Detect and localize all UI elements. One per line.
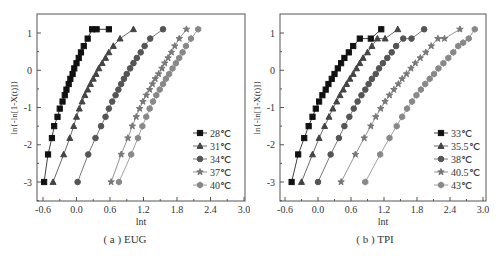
- data-point-marker: [332, 71, 337, 76]
- data-point-marker: [138, 50, 144, 56]
- data-point-marker: [368, 123, 374, 129]
- data-point-marker: [74, 114, 80, 120]
- data-point-marker: [62, 93, 67, 98]
- data-point-marker: [144, 114, 149, 120]
- data-point-marker: [55, 114, 60, 119]
- data-point-marker: [461, 40, 466, 46]
- data-point-marker: [125, 135, 131, 141]
- data-point-marker: [376, 66, 382, 72]
- data-point-marker: [108, 179, 114, 185]
- data-point-marker: [310, 114, 315, 119]
- x-tick-label: 3.0: [477, 204, 490, 215]
- data-point-marker: [340, 86, 346, 92]
- series-33℃: [289, 27, 384, 185]
- data-point-marker: [57, 106, 62, 111]
- data-point-marker: [317, 99, 322, 104]
- legend-label: 34℃: [210, 154, 231, 165]
- x-tick-label: -0.6: [35, 204, 51, 215]
- data-point-marker: [414, 92, 419, 98]
- legend-marker: [438, 156, 444, 162]
- data-point-marker: [106, 106, 112, 112]
- data-point-marker: [342, 55, 347, 60]
- data-point-marker: [142, 43, 148, 49]
- x-tick-label: 1.2: [137, 204, 150, 215]
- legend-label: 28℃: [210, 128, 231, 139]
- data-point-marker: [98, 123, 104, 129]
- legend-label: 40℃: [210, 180, 231, 191]
- data-point-marker: [350, 71, 356, 77]
- data-point-marker: [382, 98, 388, 104]
- data-point-marker: [357, 36, 362, 41]
- data-point-marker: [49, 135, 54, 140]
- data-point-marker: [336, 135, 342, 141]
- data-point-marker: [177, 55, 182, 61]
- data-point-marker: [421, 26, 427, 32]
- data-point-marker: [72, 66, 77, 71]
- data-point-marker: [363, 179, 368, 185]
- data-point-marker: [389, 50, 395, 56]
- data-point-marker: [289, 179, 294, 184]
- data-point-marker: [351, 106, 357, 112]
- data-point-marker: [337, 92, 343, 98]
- data-point-marker: [366, 81, 372, 87]
- data-point-marker: [155, 71, 161, 77]
- chart-panel-eug: -0.60.00.61.21.82.43.0lnt10-1-2-3ln{-ln[…: [0, 0, 250, 256]
- legend-label: 38℃: [451, 154, 472, 165]
- data-point-marker: [143, 92, 149, 98]
- data-point-marker: [334, 98, 340, 104]
- data-point-marker: [373, 71, 379, 77]
- chart-panel-tpi: -0.60.00.61.21.82.43.0lnt10-1-2-3ln{-ln[…: [250, 0, 500, 256]
- series-34℃: [75, 26, 166, 184]
- legend-label: 40.5℃: [451, 167, 480, 178]
- data-point-marker: [167, 71, 172, 77]
- data-point-marker: [296, 152, 301, 157]
- data-point-marker: [446, 55, 451, 61]
- y-tick-label: -3: [267, 177, 275, 188]
- data-point-marker: [146, 86, 152, 92]
- data-point-marker: [435, 35, 441, 41]
- data-point-marker: [394, 123, 399, 129]
- y-tick-label: 0: [270, 65, 275, 76]
- data-point-marker: [79, 98, 85, 104]
- data-point-marker: [173, 60, 178, 66]
- data-point-marker: [368, 36, 373, 41]
- series-28℃: [42, 27, 112, 185]
- data-point-marker: [355, 99, 361, 105]
- x-tick-label: 0.6: [345, 204, 358, 215]
- legend: 28℃31℃34℃37℃40℃: [193, 128, 231, 191]
- data-point-marker: [159, 65, 165, 71]
- y-tick-label: 0: [27, 65, 32, 76]
- x-tick-label: 3.0: [238, 204, 250, 215]
- data-point-marker: [299, 179, 305, 185]
- data-point-marker: [118, 81, 124, 87]
- data-point-marker: [400, 36, 406, 42]
- data-point-marker: [50, 179, 56, 185]
- data-point-marker: [339, 61, 344, 66]
- data-point-marker: [409, 36, 415, 42]
- data-point-marker: [382, 35, 388, 41]
- data-point-marker: [127, 66, 133, 72]
- x-tick-label: 1.8: [171, 204, 184, 215]
- data-point-marker: [61, 151, 67, 157]
- series-37℃: [108, 26, 190, 185]
- legend-label: 37℃: [210, 167, 231, 178]
- data-point-marker: [93, 71, 99, 77]
- data-point-marker: [395, 26, 401, 32]
- data-point-marker: [405, 106, 410, 112]
- data-point-marker: [67, 135, 73, 141]
- data-point-marker: [129, 123, 135, 129]
- data-point-marker: [85, 86, 91, 92]
- legend-label: 31℃: [210, 141, 231, 152]
- data-point-marker: [310, 151, 316, 157]
- data-point-marker: [163, 76, 168, 82]
- data-point-marker: [196, 26, 201, 32]
- data-point-marker: [133, 113, 139, 119]
- data-point-marker: [400, 114, 405, 120]
- data-point-marker: [351, 43, 356, 48]
- data-point-marker: [456, 43, 461, 49]
- x-axis-label: lnt: [378, 216, 389, 227]
- legend-label: 33℃: [451, 128, 472, 139]
- data-point-marker: [379, 27, 384, 32]
- y-tick-label: -1: [24, 102, 32, 113]
- data-point-marker: [361, 135, 367, 141]
